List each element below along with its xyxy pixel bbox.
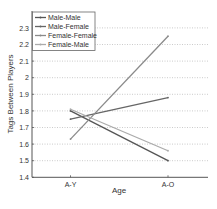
- x-axis-label: Age: [112, 186, 127, 195]
- legend-marker: [40, 26, 42, 28]
- x-tick-label: A-O: [162, 181, 175, 188]
- data-point: [167, 160, 169, 162]
- data-series: [70, 35, 169, 161]
- y-tick-label: 1.4: [19, 174, 29, 181]
- legend-label: Male-Female: [48, 23, 89, 30]
- data-point: [70, 118, 72, 120]
- y-tick-label: 1.5: [19, 157, 29, 164]
- legend-label: Female-Male: [48, 41, 89, 48]
- y-tick-label: 2: [25, 74, 29, 81]
- legend-marker: [40, 44, 42, 46]
- legend-label: Male-Male: [48, 14, 81, 21]
- y-tick-label: 1.6: [19, 141, 29, 148]
- y-tick-label: 1.7: [19, 124, 29, 131]
- series-line-male-male: [71, 111, 169, 161]
- series-line-female-female: [71, 36, 169, 139]
- line-chart: 1.41.51.61.71.81.922.12.22.3 A-YA-O Age …: [0, 0, 217, 209]
- data-point: [167, 97, 169, 99]
- y-tick-label: 1.8: [19, 108, 29, 115]
- data-point: [70, 110, 72, 112]
- data-point: [70, 108, 72, 110]
- series-line-female-male: [71, 109, 169, 151]
- legend: Male-MaleMale-FemaleFemale-FemaleFemale-…: [33, 12, 98, 51]
- y-axis-label: Tags Between Players: [6, 54, 15, 133]
- y-tick-label: 2.3: [19, 25, 29, 32]
- y-tick-label: 2.1: [19, 58, 29, 65]
- y-tick-label: 2.2: [19, 41, 29, 48]
- legend-label: Female-Female: [48, 32, 97, 39]
- data-point: [70, 138, 72, 140]
- data-point: [167, 35, 169, 37]
- data-point: [167, 150, 169, 152]
- legend-marker: [40, 17, 42, 19]
- x-tick-label: A-Y: [65, 181, 77, 188]
- y-tick-label: 1.9: [19, 91, 29, 98]
- legend-marker: [40, 35, 42, 37]
